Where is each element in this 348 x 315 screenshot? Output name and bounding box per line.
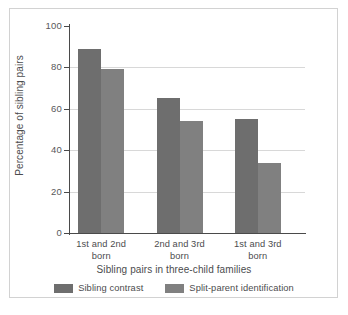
bar [258,163,281,233]
x-axis-line [69,233,306,234]
chart-legend: Sibling contrastSplit-parent identificat… [0,283,348,293]
y-tick-mark [64,192,69,193]
y-tick-mark [64,26,69,27]
y-tick-label: 100 [22,20,62,31]
y-tick-label: 0 [22,227,62,238]
gridline [70,67,305,68]
x-axis-title: Sibling pairs in three-child families [0,264,348,275]
bar [180,121,203,233]
y-tick-mark [64,67,69,68]
x-tick-label: 1st and 2ndborn [56,239,146,262]
y-tick-mark [64,150,69,151]
y-tick-label: 60 [22,103,62,114]
legend-swatch [165,284,184,293]
y-tick-label: 80 [22,61,62,72]
bar [235,119,258,233]
x-tick-label-line: 1st and 3rd [213,239,303,251]
y-tick-mark [64,233,69,234]
legend-label: Sibling contrast [78,283,143,293]
x-tick-label-line: born [135,251,225,263]
chart-figure: 020406080100 Percentage of sibling pairs… [0,0,348,315]
legend-item: Split-parent identification [165,283,294,293]
y-tick-mark [64,109,69,110]
y-tick-label: 40 [22,144,62,155]
x-tick-label: 2nd and 3rdborn [135,239,225,262]
bar [101,69,124,233]
x-tick-label-line: 2nd and 3rd [135,239,225,251]
legend-label: Split-parent identification [189,283,294,293]
y-axis-title: Percentage of sibling pairs [14,31,25,201]
bar [78,49,101,233]
x-tick-label-line: 1st and 2nd [56,239,146,251]
y-tick-label: 20 [22,186,62,197]
legend-item: Sibling contrast [54,283,143,293]
bar [157,98,180,233]
legend-swatch [54,284,73,293]
plot-area [70,26,305,233]
x-tick-label: 1st and 3rdborn [213,239,303,262]
x-tick-label-line: born [213,251,303,263]
x-tick-label-line: born [56,251,146,263]
